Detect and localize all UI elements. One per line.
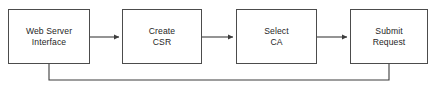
node-submit-request: Submit Request [350, 9, 428, 64]
node-create-csr: Create CSR [122, 9, 202, 64]
node-label-line-2: CA [270, 37, 282, 48]
feedback-submit-to-interface [49, 64, 389, 80]
node-label-line-2: Request [373, 37, 406, 48]
node-label-line-2: Interface [32, 37, 66, 48]
node-label-line-2: CSR [153, 37, 171, 48]
flowchart-diagram: Web Server Interface Create CSR Select C… [0, 0, 434, 91]
node-web-server-interface: Web Server Interface [8, 9, 90, 64]
node-label-line-1: Create [149, 26, 175, 37]
node-select-ca: Select CA [236, 9, 317, 64]
node-label-line-1: Select [264, 26, 289, 37]
node-label-line-1: Submit [375, 26, 402, 37]
node-label-line-1: Web Server [26, 26, 72, 37]
